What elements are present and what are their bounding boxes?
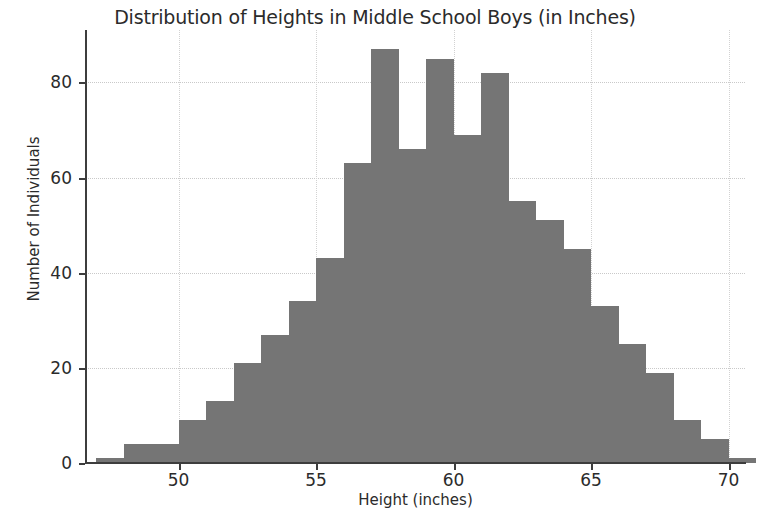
- histogram-bar: [151, 444, 179, 463]
- histogram-bar: [344, 163, 372, 463]
- histogram-bar: [426, 59, 454, 463]
- histogram-bar: [646, 373, 674, 463]
- plot-area: [85, 30, 745, 463]
- y-axis-tick-mark: [79, 82, 85, 84]
- x-axis-label: Height (inches): [85, 491, 746, 509]
- histogram-bar: [399, 149, 427, 463]
- y-axis-tick-mark: [79, 368, 85, 370]
- histogram-bar: [454, 135, 482, 463]
- y-axis-tick-mark: [79, 178, 85, 180]
- histogram-bar: [536, 220, 564, 463]
- histogram-bar: [619, 344, 647, 463]
- y-axis-tick-mark: [79, 273, 85, 275]
- y-axis-label: Number of Individuals: [25, 89, 43, 349]
- histogram-bar: [179, 420, 207, 463]
- y-axis-spine: [85, 30, 87, 464]
- x-axis-tick-mark: [179, 464, 181, 470]
- histogram-bar: [234, 363, 262, 463]
- histogram-bar: [564, 249, 592, 463]
- x-axis-tick-mark: [729, 464, 731, 470]
- x-axis-tick-mark: [591, 464, 593, 470]
- x-axis-tick-label: 70: [699, 470, 759, 490]
- histogram-bar: [316, 258, 344, 463]
- histogram-bar: [206, 401, 234, 463]
- x-axis-tick-mark: [316, 464, 318, 470]
- histogram-bar: [701, 439, 729, 463]
- x-axis-tick-mark: [454, 464, 456, 470]
- histogram-bar: [289, 301, 317, 463]
- histogram-bar: [591, 306, 619, 463]
- chart-title: Distribution of Heights in Middle School…: [0, 6, 750, 28]
- histogram-bar: [509, 201, 537, 463]
- x-axis-tick-label: 65: [561, 470, 621, 490]
- y-axis-tick-label: 0: [32, 453, 72, 473]
- y-axis-tick-mark: [79, 463, 85, 465]
- histogram-bar: [261, 335, 289, 463]
- histogram-bar: [371, 49, 399, 463]
- histogram-bar: [481, 73, 509, 463]
- x-axis-tick-label: 60: [424, 470, 484, 490]
- histogram-bar: [674, 420, 702, 463]
- histogram-bars: [85, 30, 745, 463]
- x-axis-tick-label: 55: [286, 470, 346, 490]
- y-axis-tick-label: 20: [32, 358, 72, 378]
- x-axis-tick-label: 50: [149, 470, 209, 490]
- histogram-bar: [124, 444, 152, 463]
- x-axis-spine: [85, 462, 746, 464]
